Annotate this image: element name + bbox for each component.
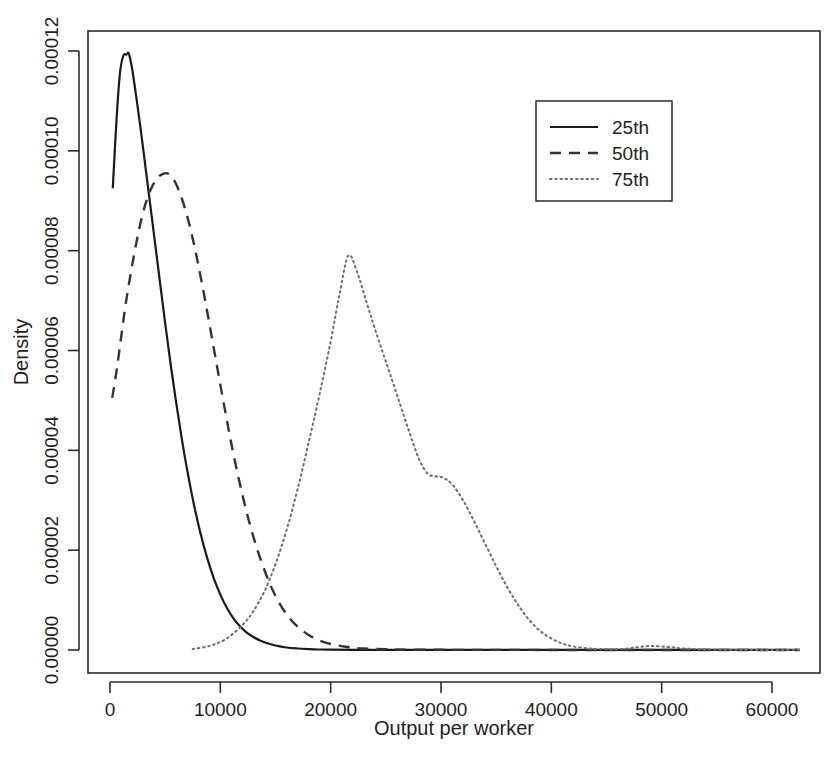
- figure-background: [0, 0, 837, 759]
- y-axis-title: Density: [10, 319, 32, 386]
- x-tick-label: 0: [105, 699, 116, 720]
- legend-label-50th: 50th: [612, 143, 649, 164]
- y-tick-label: 0.00002: [41, 516, 62, 585]
- legend-box: [536, 101, 672, 201]
- x-tick-label: 20000: [304, 699, 357, 720]
- density-plot-figure: 0100002000030000400005000060000 0.000000…: [0, 0, 837, 759]
- x-tick-label: 10000: [194, 699, 247, 720]
- x-tick-label: 60000: [746, 699, 799, 720]
- legend-label-75th: 75th: [612, 169, 649, 190]
- y-tick-label: 0.00010: [41, 116, 62, 185]
- y-tick-label: 0.00000: [41, 616, 62, 685]
- y-tick-label: 0.00006: [41, 316, 62, 385]
- y-tick-label: 0.00008: [41, 216, 62, 285]
- legend-label-25th: 25th: [612, 117, 649, 138]
- x-axis-title: Output per worker: [374, 717, 534, 739]
- chart-canvas: 0100002000030000400005000060000 0.000000…: [0, 0, 837, 759]
- y-tick-label: 0.00004: [41, 416, 62, 485]
- legend: 25th50th75th: [536, 101, 672, 201]
- y-tick-label: 0.00012: [41, 17, 62, 86]
- x-tick-label: 50000: [635, 699, 688, 720]
